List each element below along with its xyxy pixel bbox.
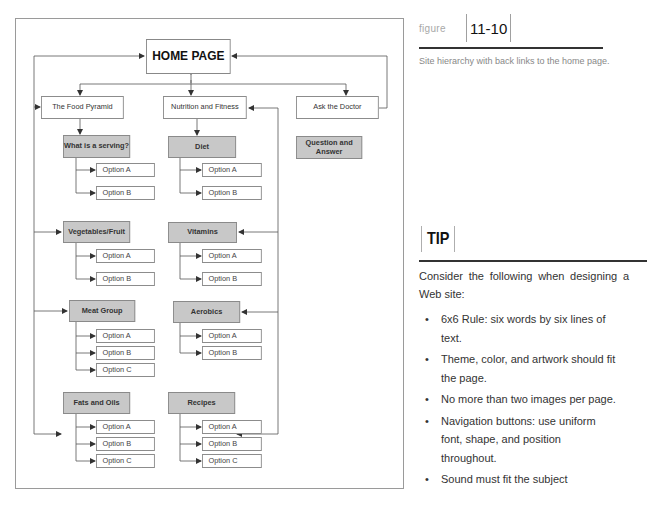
- tip-item: •6x6 Rule: six words by six lines of tex…: [419, 310, 619, 347]
- bullet-icon: •: [425, 412, 429, 431]
- tip-item-text: Navigation buttons: use uniform font, sh…: [441, 415, 596, 464]
- home-page-node: HOME PAGE: [146, 39, 231, 74]
- tip-item: •Theme, color, and artwork should fit th…: [419, 350, 619, 387]
- tip-item-text: Theme, color, and artwork should fit the…: [441, 353, 615, 384]
- option-box: Option B: [202, 346, 262, 360]
- option-box: Option A: [96, 420, 155, 434]
- bullet-icon: •: [425, 310, 429, 329]
- subpage-fats-oils: Fats and Oils: [63, 392, 130, 414]
- option-box: Option B: [96, 346, 155, 360]
- figure-label: figure: [419, 23, 446, 34]
- section-food-pyramid: The Food Pyramid: [41, 96, 124, 119]
- section-nutrition-fitness: Nutrition and Fitness: [163, 96, 247, 119]
- option-box: Option A: [96, 329, 155, 343]
- figure-caption: Site hierarchy with back links to the ho…: [419, 55, 619, 67]
- option-box: Option C: [202, 454, 262, 468]
- option-box: Option A: [202, 329, 262, 343]
- tip-intro: Consider the following when designing a …: [419, 267, 629, 303]
- tip-item: •Navigation buttons: use uniform font, s…: [419, 412, 619, 468]
- bullet-icon: •: [425, 470, 429, 489]
- subpage-diet: Diet: [168, 136, 236, 158]
- option-box: Option B: [96, 186, 155, 200]
- option-box: Option A: [96, 249, 155, 263]
- option-box: Option B: [202, 272, 262, 286]
- option-box: Option C: [96, 363, 155, 377]
- option-box: Option A: [202, 163, 262, 177]
- option-box: Option C: [96, 454, 155, 468]
- option-box: Option B: [202, 186, 262, 200]
- subpage-aerobics: Aerobics: [173, 301, 240, 323]
- tip-title: TIP: [421, 226, 455, 252]
- tip-item-text: Sound must fit the subject: [441, 473, 568, 485]
- tip-item-text: No more than two images per page.: [441, 393, 616, 405]
- subpage-vitamins: Vitamins: [168, 222, 237, 243]
- tip-item: •Sound must fit the subject: [419, 470, 619, 489]
- tip-item-text: 6x6 Rule: six words by six lines of text…: [441, 313, 605, 344]
- subpage-meat-group: Meat Group: [69, 300, 135, 322]
- option-box: Option A: [202, 420, 262, 434]
- option-box: Option B: [96, 272, 155, 286]
- bullet-icon: •: [425, 390, 429, 409]
- option-box: Option A: [202, 249, 262, 263]
- option-box: Option A: [96, 163, 155, 177]
- tip-rule: [419, 260, 647, 262]
- tip-item: •No more than two images per page.: [419, 390, 619, 409]
- section-ask-doctor: Ask the Doctor: [296, 96, 379, 119]
- subpage-question-answer: Question and Answer: [296, 136, 362, 159]
- tip-list: •6x6 Rule: six words by six lines of tex…: [419, 310, 619, 492]
- option-box: Option B: [202, 437, 262, 451]
- subpage-vegetables-fruit: Vegetables/Fruit: [63, 221, 130, 243]
- figure-rule: [419, 47, 603, 49]
- figure-number: 11-10: [466, 14, 511, 42]
- subpage-what-is-serving: What is a serving?: [63, 135, 130, 158]
- subpage-recipes: Recipes: [168, 392, 235, 414]
- bullet-icon: •: [425, 350, 429, 369]
- option-box: Option B: [96, 437, 155, 451]
